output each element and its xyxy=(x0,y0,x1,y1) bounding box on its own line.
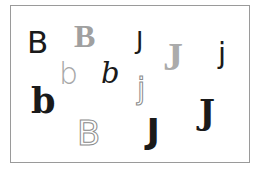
letter-J-sans-black: J xyxy=(146,115,160,148)
letter-b-slab-bold: b xyxy=(31,83,55,118)
letter-b-sans-light: b xyxy=(59,59,78,89)
letter-J-serif-bold: J xyxy=(199,95,215,129)
letter-B-sans: B xyxy=(27,27,48,58)
letter-J-serif-gray: J xyxy=(163,37,183,77)
letter-J-sans: J xyxy=(136,28,143,53)
letter-j-sans: j xyxy=(218,39,226,68)
letter-B-outline: B xyxy=(77,116,100,150)
letter-b-serif-italic: b xyxy=(101,59,120,88)
letter-B-serif-bold: B xyxy=(74,20,95,52)
letter-j-outline: j xyxy=(137,74,145,104)
